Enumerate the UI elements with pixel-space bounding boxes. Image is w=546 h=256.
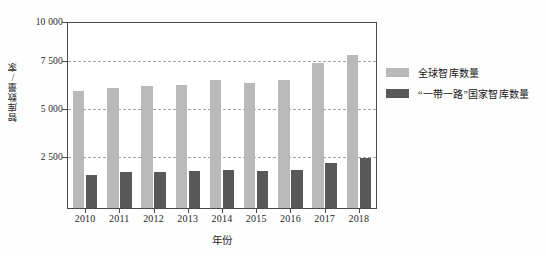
bar-2013-series-1 <box>189 171 201 208</box>
legend-item-0[interactable]: 全球智库数量 <box>386 62 529 83</box>
bar-2016-series-0 <box>278 80 290 208</box>
y-tick-label-7500: 7 500 <box>3 56 63 66</box>
bar-2014-series-0 <box>210 80 222 208</box>
gridline-7500 <box>68 61 376 62</box>
bar-2018-series-1 <box>360 158 372 208</box>
plot-area <box>67 22 377 209</box>
bar-2012-series-0 <box>141 86 153 208</box>
legend-swatch-icon-series-1 <box>386 89 409 98</box>
y-tick-label-5000: 5 000 <box>3 104 63 114</box>
bar-2011-series-1 <box>120 172 132 208</box>
bar-2010-series-1 <box>86 175 98 208</box>
legend-label-series-0: 全球智库数量 <box>418 65 479 80</box>
bar-2012-series-1 <box>154 172 166 208</box>
legend-swatch-icon-series-0 <box>386 68 409 77</box>
bar-2013-series-0 <box>176 85 188 208</box>
bar-2010-series-0 <box>73 91 85 208</box>
x-tick-label-2018: 2018 <box>339 213 379 224</box>
bar-2014-series-1 <box>223 170 235 208</box>
x-axis-title: 年份 <box>0 232 444 247</box>
y-tick-label-10000: 10 000 <box>3 17 63 27</box>
legend-item-1[interactable]: “一带一路”国家智库数量 <box>386 83 529 104</box>
bar-2015-series-1 <box>257 171 269 208</box>
bar-2016-series-1 <box>291 170 303 208</box>
y-tick-label-2500: 2 500 <box>3 152 63 162</box>
legend-label-series-1: “一带一路”国家智库数量 <box>418 86 529 101</box>
bar-2018-series-0 <box>347 55 359 208</box>
bar-2017-series-1 <box>325 163 337 208</box>
bar-2015-series-0 <box>244 83 256 208</box>
bar-2011-series-0 <box>107 88 119 208</box>
bar-2017-series-0 <box>312 63 324 208</box>
chart-figure: 智库数量/家 10 000 7 500 5 000 2 500 20102011… <box>0 0 546 256</box>
chart-legend: 全球智库数量 “一带一路”国家智库数量 <box>386 62 529 104</box>
